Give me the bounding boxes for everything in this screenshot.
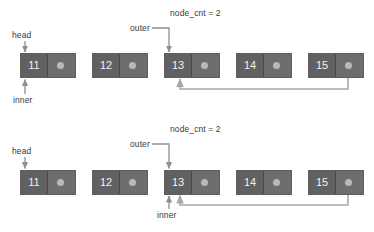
node-value: 11 — [21, 171, 48, 194]
label-node-cnt: node_cnt = 2 — [170, 124, 221, 134]
node-next-pointer — [120, 54, 147, 77]
label-inner: inner — [157, 210, 176, 220]
pointer-dot-icon — [57, 62, 64, 69]
list-node[interactable]: 11 — [20, 53, 76, 78]
node-next-pointer — [48, 171, 75, 194]
linked-list-diagram-bottom: 11 12 13 14 15 head inner outer node_cnt… — [0, 116, 374, 232]
node-value: 12 — [93, 171, 120, 194]
pointer-dot-icon — [273, 179, 280, 186]
diagram-canvas: 11 12 13 14 15 head inner outer node_cnt… — [0, 0, 374, 232]
list-node[interactable]: 15 — [308, 170, 364, 195]
list-node[interactable]: 12 — [92, 53, 148, 78]
list-node[interactable]: 14 — [236, 170, 292, 195]
list-node[interactable]: 14 — [236, 53, 292, 78]
node-value: 11 — [21, 54, 48, 77]
pointer-dot-icon — [345, 179, 352, 186]
node-next-pointer — [48, 54, 75, 77]
label-outer: outer — [130, 23, 150, 33]
node-value: 15 — [309, 54, 336, 77]
list-node[interactable]: 13 — [164, 170, 220, 195]
node-next-pointer — [264, 54, 291, 77]
label-node-cnt: node_cnt = 2 — [170, 8, 221, 18]
pointer-dot-icon — [129, 62, 136, 69]
node-value: 13 — [165, 54, 192, 77]
list-node[interactable]: 13 — [164, 53, 220, 78]
pointer-dot-icon — [201, 179, 208, 186]
node-next-pointer — [192, 171, 219, 194]
label-outer: outer — [130, 139, 150, 149]
pointer-dot-icon — [345, 62, 352, 69]
node-next-pointer — [264, 171, 291, 194]
pointer-dot-icon — [273, 62, 280, 69]
list-node[interactable]: 15 — [308, 53, 364, 78]
node-next-pointer — [336, 171, 363, 194]
node-value: 13 — [165, 171, 192, 194]
label-head: head — [12, 146, 31, 156]
node-value: 14 — [237, 54, 264, 77]
pointer-dot-icon — [57, 179, 64, 186]
node-value: 15 — [309, 171, 336, 194]
node-value: 14 — [237, 171, 264, 194]
node-next-pointer — [192, 54, 219, 77]
linked-list-diagram-top: 11 12 13 14 15 head inner outer node_cnt… — [0, 0, 374, 116]
list-node[interactable]: 12 — [92, 170, 148, 195]
node-next-pointer — [120, 171, 147, 194]
pointer-dot-icon — [201, 62, 208, 69]
node-value: 12 — [93, 54, 120, 77]
label-inner: inner — [13, 95, 32, 105]
pointer-dot-icon — [129, 179, 136, 186]
node-next-pointer — [336, 54, 363, 77]
label-head: head — [12, 30, 31, 40]
list-node[interactable]: 11 — [20, 170, 76, 195]
